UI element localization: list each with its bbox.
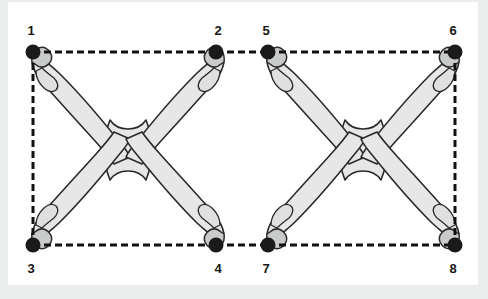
left-arm-to-node-4 <box>126 132 224 249</box>
node-marker-4 <box>209 238 224 253</box>
node-marker-1 <box>26 45 41 60</box>
node-label-5: 5 <box>262 24 269 37</box>
left-arm-to-node-3 <box>32 132 130 249</box>
right-arm-to-node-7 <box>267 132 365 249</box>
node-label-3: 3 <box>27 262 34 275</box>
specimen-diagram <box>0 0 488 299</box>
node-label-2: 2 <box>214 24 221 37</box>
node-marker-6 <box>448 45 463 60</box>
node-label-8: 8 <box>449 262 456 275</box>
node-label-6: 6 <box>449 24 456 37</box>
node-layer <box>26 45 463 253</box>
right-arm-to-node-8 <box>361 132 459 249</box>
node-marker-5 <box>261 45 276 60</box>
node-label-1: 1 <box>27 24 34 37</box>
node-marker-3 <box>26 238 41 253</box>
node-marker-2 <box>209 45 224 60</box>
right-construct <box>267 47 459 248</box>
node-label-7: 7 <box>262 262 269 275</box>
node-marker-8 <box>448 238 463 253</box>
node-marker-7 <box>261 238 276 253</box>
node-label-4: 4 <box>214 262 221 275</box>
left-construct <box>32 47 224 248</box>
figure-stage: 12345678 <box>0 0 488 299</box>
frame-bridge <box>216 52 268 245</box>
